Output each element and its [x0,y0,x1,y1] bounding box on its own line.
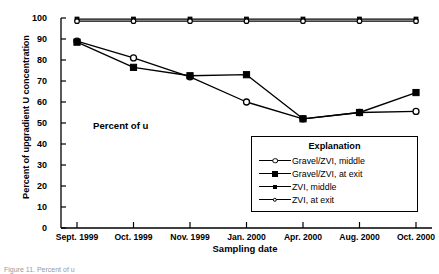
legend-entry: Gravel/ZVI, at exit [258,167,411,180]
data-series-layer [74,17,419,122]
legend-marker-open-small-icon [258,193,292,206]
legend-entry-label: Gravel/ZVI, middle [292,156,365,166]
legend-marker-open-circle-icon [258,154,292,167]
legend-entries: Gravel/ZVI, middleGravel/ZVI, at exitZVI… [258,154,411,206]
legend-entry: ZVI, middle [258,180,411,193]
y-axis-ticks [61,18,66,228]
x-axis-title: Sampling date [60,243,430,254]
x-tick-label: Oct. 2000 [381,232,439,242]
legend-marker-filled-small-icon [258,180,292,193]
chart-figure: Percent of upgradient U concentration 01… [0,0,439,274]
figure-caption: Figure 11. Percent of u [4,266,75,274]
series-gravel-zvi-at-exit [74,39,419,122]
legend-entry: ZVI, at exit [258,193,411,206]
legend-entry: Gravel/ZVI, middle [258,154,411,167]
legend-marker-filled-square-icon [258,167,292,180]
legend-entry-label: ZVI, middle [292,182,337,192]
plot-annotation: Percent of u [93,120,148,131]
legend-box: Explanation Gravel/ZVI, middleGravel/ZVI… [251,136,418,212]
x-axis-ticks [77,222,416,228]
legend-entry-label: ZVI, at exit [292,195,334,205]
legend-title: Explanation [258,141,411,151]
legend-entry-label: Gravel/ZVI, at exit [292,169,362,179]
